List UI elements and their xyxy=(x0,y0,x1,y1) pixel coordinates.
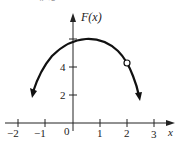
x-tick-label-3: 3 xyxy=(151,129,157,140)
x-tick-label-neg2: −2 xyxy=(7,128,19,139)
x-axis-label: x xyxy=(168,127,173,138)
left-arrow-icon xyxy=(30,88,37,98)
y-axis-label: F(x) xyxy=(81,11,102,23)
y-tick-label-2: 2 xyxy=(60,90,66,101)
y-tick-label-4: 4 xyxy=(60,62,66,73)
x-tick-label-neg1: −1 xyxy=(34,128,46,139)
x-tick-label-1: 1 xyxy=(97,128,103,139)
y-axis-arrow-icon xyxy=(70,13,76,22)
x-tick-label-2: 2 xyxy=(124,128,130,139)
curve-F xyxy=(33,39,139,96)
chart: x→2 F(x) x 4 2 −2 −1 0 1 xyxy=(0,0,185,151)
open-circle-marker xyxy=(124,60,130,66)
x-tick-label-0: 0 xyxy=(64,126,70,137)
right-arrow-icon xyxy=(135,92,142,101)
